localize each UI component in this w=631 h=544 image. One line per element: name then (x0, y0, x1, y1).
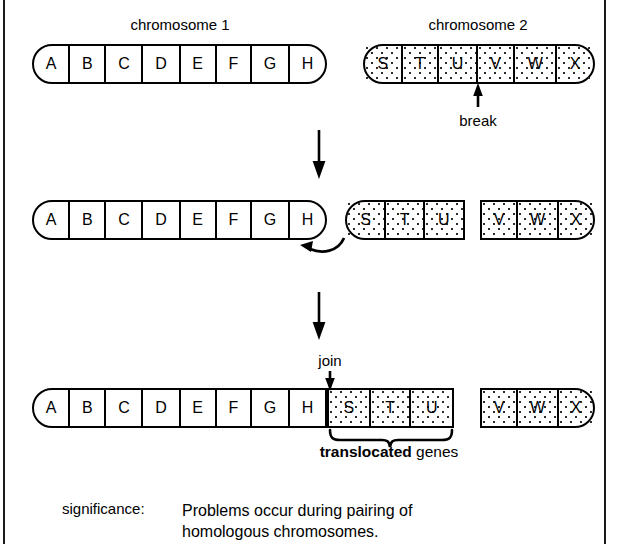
gene-cell: G (252, 390, 290, 426)
gene-cell: S (329, 390, 371, 426)
gene-cell: D (143, 202, 180, 238)
translocated-genes-label: translocated genes (320, 443, 459, 461)
down-arrow-stage2-icon (313, 292, 326, 340)
gene-cell: U (439, 46, 477, 82)
gene-cell: T (386, 202, 424, 238)
gene-cell: F (217, 390, 252, 426)
curved-arrow-icon (300, 238, 344, 252)
chromosome-1-label: chromosome 1 (130, 16, 229, 34)
gene-cell: H (290, 46, 325, 82)
chromosome-2-bar-stage1: S T U V W X (363, 44, 595, 84)
chromosome-1-bar-stage1: A B C D E F G H (32, 44, 327, 84)
gene-cell: E (181, 46, 217, 82)
genes-word: genes (412, 443, 459, 460)
gene-cell: F (217, 46, 252, 82)
gene-cell: W (518, 390, 559, 426)
gene-cell: X (559, 390, 593, 426)
gene-cell: T (371, 390, 412, 426)
gene-cell: D (143, 390, 180, 426)
gene-cell: A (34, 202, 70, 238)
gene-cell: V (482, 390, 518, 426)
gene-cell: B (70, 46, 106, 82)
significance-text: Problems occur during pairing of homolog… (182, 500, 482, 542)
chromosome-2-label: chromosome 2 (428, 16, 527, 34)
fragment-stu-stage2: S T U (345, 200, 465, 240)
gene-cell: H (290, 202, 325, 238)
gene-cell: D (143, 46, 180, 82)
break-label: break (459, 112, 497, 130)
gene-cell: C (106, 202, 143, 238)
fragment-vwx-stage3: V W X (480, 388, 595, 428)
gene-cell: V (478, 46, 516, 82)
gene-cell: B (70, 202, 106, 238)
gene-cell: U (425, 202, 463, 238)
gene-cell: W (515, 46, 557, 82)
gene-cell: U (411, 390, 452, 426)
gene-cell: E (181, 202, 217, 238)
page-border-left (3, 0, 5, 544)
gene-cell: C (106, 390, 143, 426)
gene-cell: V (482, 202, 518, 238)
gene-cell: G (252, 46, 290, 82)
translocation-diagram: chromosome 1 chromosome 2 A B C D E F G … (0, 0, 631, 544)
gene-cell: A (34, 390, 70, 426)
gene-cell: S (347, 202, 386, 238)
gene-cell: E (181, 390, 217, 426)
gene-cell: W (518, 202, 559, 238)
gene-cell: B (70, 390, 106, 426)
translocated-segment-stu: S T U (327, 388, 454, 428)
translocated-word: translocated (320, 443, 412, 460)
gene-cell: A (34, 46, 70, 82)
gene-cell: H (290, 390, 325, 426)
fragment-vwx-stage2: V W X (480, 200, 595, 240)
significance-term: significance: (62, 500, 145, 518)
gene-cell: T (403, 46, 440, 82)
page-border-right (604, 0, 606, 544)
gene-cell: C (106, 46, 143, 82)
gene-cell: F (217, 202, 252, 238)
chromosome-1-bar-stage2: A B C D E F G H (32, 200, 327, 240)
break-arrow-icon (473, 83, 483, 107)
gene-cell: S (365, 46, 403, 82)
down-arrow-stage1-icon (313, 130, 326, 179)
gene-cell: X (557, 46, 593, 82)
gene-cell: G (252, 202, 290, 238)
gene-cell: X (559, 202, 593, 238)
join-label: join (318, 352, 341, 370)
chromosome-1-bar-stage3: A B C D E F G H (32, 388, 327, 428)
